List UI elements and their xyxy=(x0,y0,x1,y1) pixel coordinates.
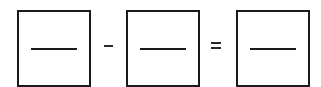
equals-operator: = xyxy=(206,0,226,87)
result-box-value xyxy=(238,12,239,13)
blank-line xyxy=(140,48,186,50)
operand-box-1[interactable] xyxy=(17,10,91,87)
minus-icon xyxy=(104,45,113,47)
result-box[interactable] xyxy=(236,10,310,87)
operand-box-2[interactable] xyxy=(126,10,200,87)
minus-operator: - xyxy=(98,0,118,87)
blank-line xyxy=(31,48,77,50)
equals-icon xyxy=(211,42,221,49)
operand-box-2-value xyxy=(128,12,129,13)
blank-line xyxy=(250,48,296,50)
operand-box-1-value xyxy=(19,12,20,13)
